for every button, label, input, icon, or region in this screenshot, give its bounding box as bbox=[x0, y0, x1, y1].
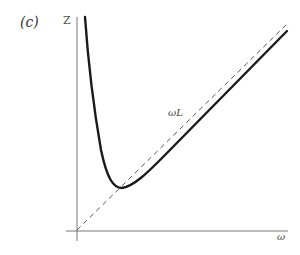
impedance-curve bbox=[85, 17, 287, 188]
impedance-figure: (c) Z ωL ω bbox=[0, 0, 300, 255]
plot-canvas bbox=[0, 0, 300, 255]
x-axis-label: ω bbox=[277, 232, 285, 242]
asymptote-label: ωL bbox=[168, 108, 183, 118]
y-axis-label: Z bbox=[63, 15, 71, 26]
panel-label: (c) bbox=[20, 15, 39, 29]
asymptote-line bbox=[77, 24, 287, 230]
